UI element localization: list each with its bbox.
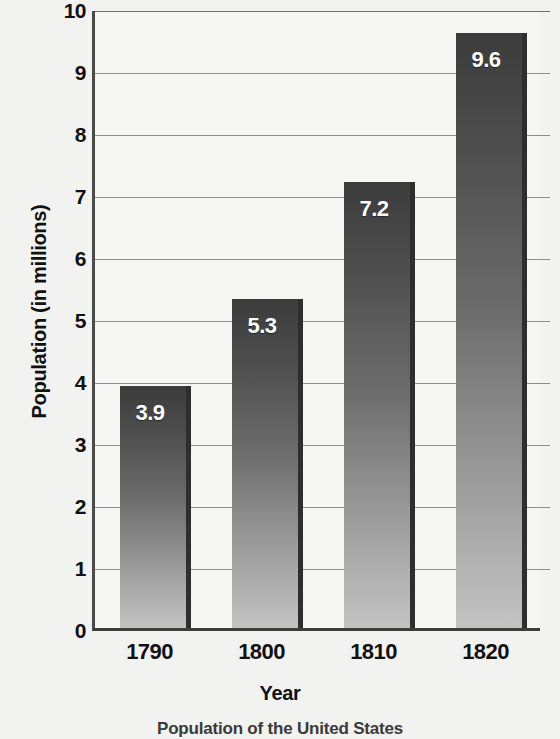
x-tick-label-1810: 1810: [350, 639, 397, 665]
x-axis-tick-labels: 1790180018101820: [92, 639, 540, 673]
y-tick-label-7: 7: [46, 185, 86, 209]
bar-1810: 7.2: [344, 182, 415, 628]
y-axis-tick-labels: 109876543210: [46, 0, 86, 660]
bar-1820: 9.6: [456, 33, 527, 628]
figure-caption: Population of the United States: [0, 719, 560, 739]
bar-1800: 5.3: [232, 299, 303, 628]
bars-group: 3.95.37.29.6: [95, 11, 540, 628]
x-axis-title: Year: [0, 682, 560, 705]
y-tick-label-1: 1: [46, 557, 86, 581]
x-tick-label-1790: 1790: [126, 639, 173, 665]
y-tick-label-9: 9: [46, 61, 86, 85]
bar-value-label-1800: 5.3: [232, 313, 293, 339]
plot-area: 3.95.37.29.6: [92, 11, 540, 631]
y-tick-label-6: 6: [46, 247, 86, 271]
x-tick-label-1800: 1800: [238, 639, 285, 665]
x-tick-label-1820: 1820: [462, 639, 509, 665]
bar-value-label-1820: 9.6: [456, 47, 517, 73]
y-tick-label-3: 3: [46, 433, 86, 457]
bar-1790: 3.9: [120, 386, 191, 628]
y-tick-label-0: 0: [46, 619, 86, 643]
y-tick-label-4: 4: [46, 371, 86, 395]
bar-value-label-1790: 3.9: [120, 400, 181, 426]
y-tick-label-2: 2: [46, 495, 86, 519]
y-tick-label-5: 5: [46, 309, 86, 333]
bar-value-label-1810: 7.2: [344, 196, 405, 222]
y-tick-label-10: 10: [46, 0, 86, 23]
y-tick-label-8: 8: [46, 123, 86, 147]
